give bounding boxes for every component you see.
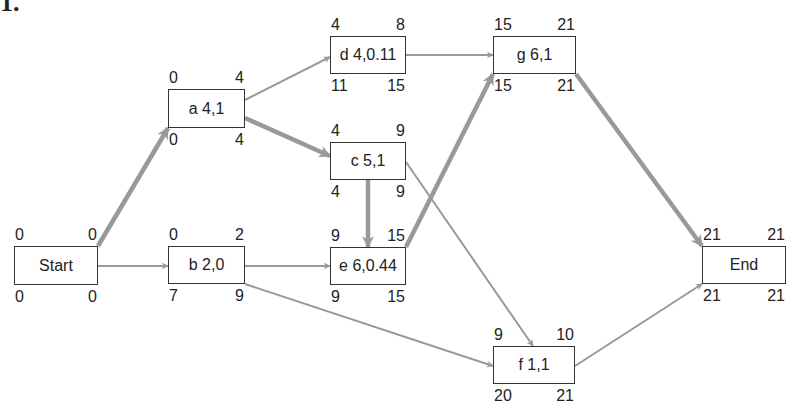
node-a-lf: 4 (235, 132, 244, 148)
node-f-lf: 21 (556, 388, 574, 404)
edge-g-to-end-critical (576, 74, 702, 246)
node-d-ls: 11 (331, 78, 348, 94)
node-start-ls: 0 (15, 289, 24, 305)
node-label: b 2,0 (189, 256, 225, 274)
node-label: d 4,0.11 (340, 46, 397, 64)
node-a-es: 0 (169, 70, 178, 86)
node-d-es: 4 (331, 17, 340, 33)
node-end-lf: 21 (767, 288, 785, 304)
edge-start-to-a-critical (98, 128, 168, 246)
node-g-ls: 15 (494, 78, 512, 94)
node-end-ef: 21 (767, 227, 785, 243)
node-f-es: 9 (494, 327, 503, 343)
node-f-ef: 10 (556, 327, 574, 343)
node-start-lf: 0 (88, 289, 97, 305)
node-label: c 5,1 (351, 152, 386, 170)
node-c-ls: 4 (331, 184, 340, 200)
node-a: a 4,1 (168, 89, 245, 128)
node-label: e 6,0.44 (339, 257, 397, 275)
node-e-ef: 15 (387, 228, 405, 244)
node-g-ef: 21 (557, 17, 575, 33)
node-d: d 4,0.11 (330, 36, 406, 74)
node-b-ef: 2 (235, 227, 244, 243)
node-end-ls: 21 (703, 288, 721, 304)
node-b-lf: 9 (235, 288, 244, 304)
node-b: b 2,0 (168, 246, 245, 284)
node-e: e 6,0.44 (330, 247, 406, 285)
node-g-lf: 21 (557, 78, 575, 94)
node-g-es: 15 (494, 17, 512, 33)
node-end-es: 21 (703, 227, 721, 243)
node-e-ls: 9 (331, 289, 340, 305)
node-f: f 1,1 (493, 346, 575, 384)
edge-c-to-f (406, 162, 533, 346)
node-end: End (702, 246, 786, 284)
node-c-lf: 9 (396, 184, 405, 200)
node-start-ef: 0 (88, 227, 97, 243)
node-a-ls: 0 (169, 132, 178, 148)
edge-a-to-d (245, 57, 330, 100)
node-a-ef: 4 (235, 70, 244, 86)
edge-f-to-end (575, 284, 702, 366)
node-e-es: 9 (331, 228, 340, 244)
edge-a-to-c-critical (245, 118, 330, 156)
node-g: g 6,1 (493, 36, 576, 74)
node-label: a 4,1 (189, 100, 225, 118)
node-d-ef: 8 (396, 17, 405, 33)
edge-b-to-f (245, 284, 493, 366)
node-b-es: 0 (169, 227, 178, 243)
edge-e-to-g-critical (406, 74, 493, 247)
node-label: End (730, 256, 758, 274)
node-f-ls: 20 (494, 388, 512, 404)
node-start: Start (14, 246, 98, 285)
node-label: f 1,1 (518, 356, 549, 374)
node-c-es: 4 (331, 123, 340, 139)
node-label: Start (39, 257, 73, 275)
node-c-ef: 9 (396, 123, 405, 139)
node-d-lf: 15 (387, 78, 405, 94)
node-c: c 5,1 (330, 142, 406, 180)
node-b-ls: 7 (169, 288, 178, 304)
node-label: g 6,1 (517, 46, 553, 64)
node-e-lf: 15 (387, 289, 405, 305)
node-start-es: 0 (15, 227, 24, 243)
